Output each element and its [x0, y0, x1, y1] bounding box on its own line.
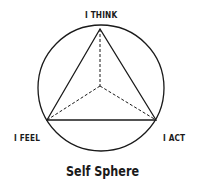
label-i-act: I ACT: [163, 133, 185, 143]
label-i-think: I THINK: [85, 10, 117, 20]
label-i-feel: I FEEL: [14, 133, 40, 143]
dashed-line-left: [47, 86, 100, 120]
dashed-line-right: [100, 86, 156, 120]
triangle: [47, 29, 156, 120]
diagram-title: Self Sphere: [66, 163, 139, 179]
sphere-circle: [38, 25, 164, 151]
